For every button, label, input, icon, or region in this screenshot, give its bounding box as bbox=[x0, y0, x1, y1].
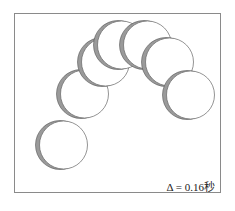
ball-1 bbox=[36, 121, 88, 170]
ball-7 bbox=[163, 71, 215, 120]
time-interval-label: Δ = 0.16秒 bbox=[167, 178, 215, 194]
